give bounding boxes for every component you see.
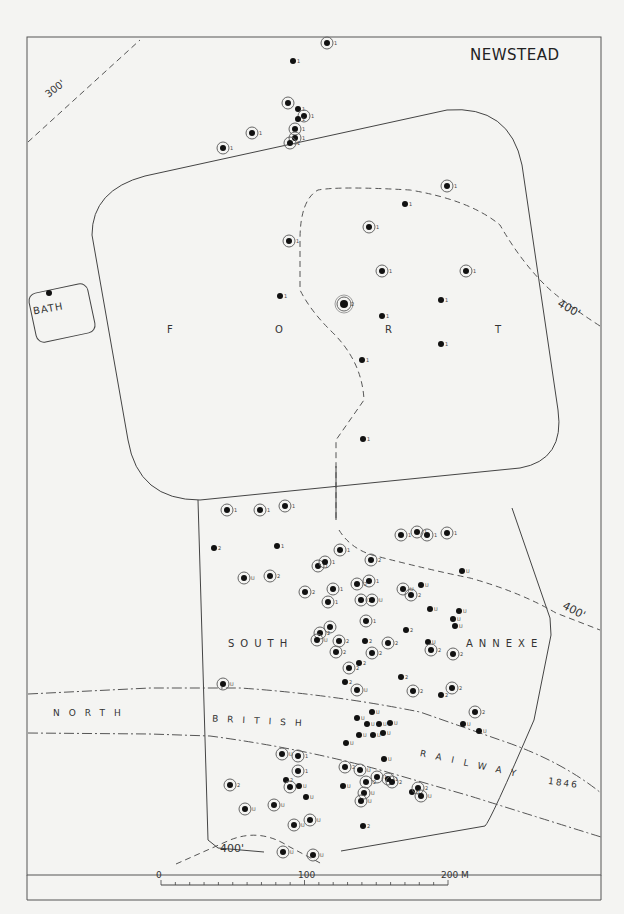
findspot-marker: 2 xyxy=(407,685,423,697)
svg-text:2: 2 xyxy=(438,647,441,653)
svg-text:2: 2 xyxy=(395,640,398,646)
findspot-marker: 2 xyxy=(299,586,315,598)
svg-text:2: 2 xyxy=(482,709,485,715)
findspot-marker: U xyxy=(340,783,351,789)
svg-text:1: 1 xyxy=(302,116,305,122)
svg-text:U: U xyxy=(303,783,307,789)
findspot-marker: 2 xyxy=(330,646,346,658)
svg-text:2: 2 xyxy=(237,782,240,788)
findspot-marker: 2 xyxy=(351,578,367,590)
findspot-marker: 1 xyxy=(438,297,448,303)
svg-text:2: 2 xyxy=(356,665,359,671)
findspot-marker: U xyxy=(460,721,471,727)
findspot-marker: U xyxy=(376,721,387,727)
svg-text:1: 1 xyxy=(234,507,237,513)
svg-text:U: U xyxy=(483,728,487,734)
svg-text:U: U xyxy=(252,806,256,812)
svg-text:2: 2 xyxy=(378,557,381,563)
scale-label-200: 200 M xyxy=(441,870,469,880)
svg-text:1: 1 xyxy=(311,113,314,119)
svg-text:2: 2 xyxy=(405,674,408,680)
findspot-marker: 2 xyxy=(264,570,280,582)
findspot-marker: 1 xyxy=(217,142,233,154)
svg-text:1: 1 xyxy=(230,145,233,151)
findspot-marker: 2 xyxy=(447,648,463,660)
findspot-marker: 1 xyxy=(322,596,338,608)
findspot-marker: 1 xyxy=(277,293,287,299)
findspot-marker: U xyxy=(380,730,391,736)
svg-text:U: U xyxy=(376,709,380,715)
findspot-marker: 1 xyxy=(360,615,376,627)
findspot-marker: 1 xyxy=(355,594,371,606)
south-annexe-outline xyxy=(198,500,551,852)
svg-text:2: 2 xyxy=(410,627,413,633)
findspot-marker: 2 xyxy=(438,692,448,698)
findspot-marker: U xyxy=(343,740,354,746)
svg-text:2: 2 xyxy=(460,651,463,657)
map-title: NEWSTEAD xyxy=(470,46,560,64)
findspot-marker: 1 xyxy=(290,58,300,64)
findspot-marker: 1 xyxy=(274,543,284,549)
svg-text:1: 1 xyxy=(281,543,284,549)
svg-text:U: U xyxy=(364,687,368,693)
findspot-marker: 2 xyxy=(403,627,413,633)
findspot-marker: 2 xyxy=(398,674,408,680)
svg-text:U: U xyxy=(361,715,365,721)
svg-text:1: 1 xyxy=(302,126,305,132)
findspot-marker: 1 xyxy=(363,221,379,233)
scale-bar xyxy=(161,880,448,885)
svg-text:1: 1 xyxy=(376,578,379,584)
svg-text:U: U xyxy=(251,575,255,581)
svg-text:2: 2 xyxy=(425,785,428,791)
svg-text:1: 1 xyxy=(305,768,308,774)
findspot-marker: U xyxy=(427,606,438,612)
svg-text:U: U xyxy=(367,767,371,773)
findspot-marker: 1 xyxy=(371,771,387,783)
findspot-marker: 2 xyxy=(333,635,349,647)
svg-text:U: U xyxy=(425,582,429,588)
svg-text:U: U xyxy=(459,623,463,629)
findspot-marker: U xyxy=(418,582,429,588)
svg-text:U: U xyxy=(230,681,234,687)
svg-text:2: 2 xyxy=(327,630,330,636)
svg-text:2: 2 xyxy=(418,592,421,598)
svg-text:1: 1 xyxy=(305,753,308,759)
svg-text:U: U xyxy=(371,721,375,727)
svg-text:1: 1 xyxy=(340,586,343,592)
svg-text:1: 1 xyxy=(376,224,379,230)
findspot-marker xyxy=(282,97,294,109)
svg-text:1: 1 xyxy=(454,530,457,536)
findspot-marker: U xyxy=(364,721,375,727)
svg-text:1: 1 xyxy=(445,297,448,303)
svg-text:2: 2 xyxy=(445,692,448,698)
svg-text:2: 2 xyxy=(399,779,402,785)
findspot-marker: 2 xyxy=(342,679,352,685)
findspot-marker: 1 xyxy=(441,180,457,192)
svg-text:1: 1 xyxy=(332,559,335,565)
findspot-marker: U xyxy=(456,608,467,614)
svg-text:2: 2 xyxy=(459,685,462,691)
svg-text:U: U xyxy=(457,616,461,622)
findspot-marker: 2 xyxy=(335,295,354,313)
contour-400-fort xyxy=(300,188,600,520)
findspot-marker: U xyxy=(387,720,398,726)
svg-text:2: 2 xyxy=(277,573,280,579)
svg-text:1: 1 xyxy=(434,532,437,538)
fort-letter-r: R xyxy=(385,324,393,335)
map-frame xyxy=(27,37,601,875)
findspot-marker: 2 xyxy=(446,682,462,694)
svg-text:U: U xyxy=(467,721,471,727)
findspot-marker: U xyxy=(355,795,372,807)
findspot-marker: U xyxy=(239,803,256,815)
svg-text:1: 1 xyxy=(373,618,376,624)
svg-text:U: U xyxy=(368,798,372,804)
svg-text:1: 1 xyxy=(297,140,300,146)
findspot-marker: U xyxy=(354,715,365,721)
svg-text:2: 2 xyxy=(349,679,352,685)
svg-text:1: 1 xyxy=(334,40,337,46)
svg-text:U: U xyxy=(363,732,367,738)
findspot-marker: 2 xyxy=(425,644,441,656)
findspot-marker: 1 xyxy=(279,500,295,512)
findspot-marker xyxy=(46,290,52,296)
svg-text:1: 1 xyxy=(292,503,295,509)
